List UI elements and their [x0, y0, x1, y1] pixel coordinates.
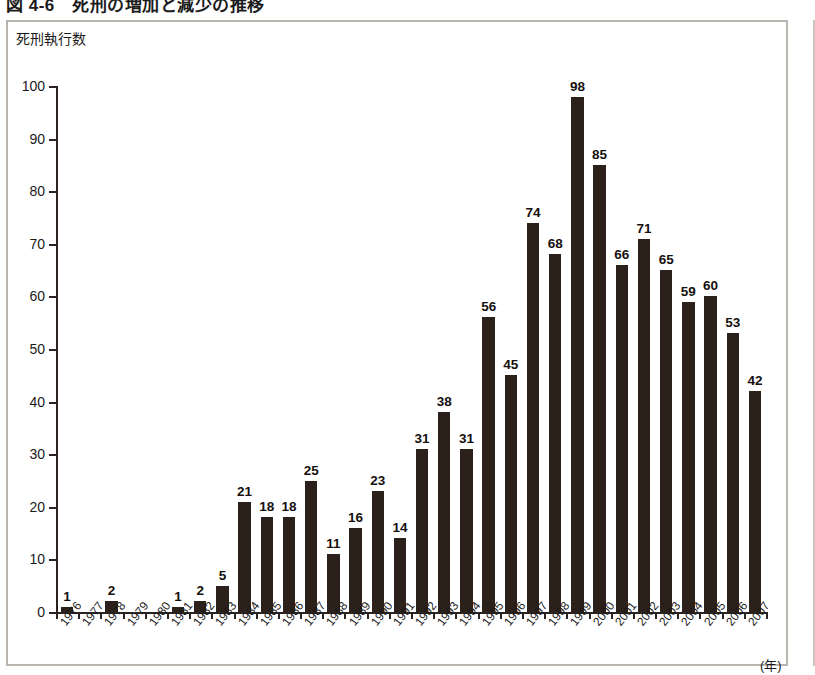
y-tick-label: 50 — [29, 341, 45, 357]
y-tick-label: 100 — [22, 78, 45, 94]
bar-value-label: 18 — [281, 499, 296, 514]
bar-value-label: 16 — [348, 510, 363, 525]
bar-slot: 21 — [238, 86, 250, 612]
bar — [460, 449, 472, 612]
bar-slot: 56 — [482, 86, 494, 612]
bar-value-label: 65 — [659, 252, 674, 267]
y-tick-label: 0 — [37, 604, 45, 620]
bar-slot: 2 — [194, 86, 206, 612]
bar-slot: 16 — [349, 86, 361, 612]
bar-value-label: 1 — [174, 589, 182, 604]
bar-slot: 71 — [638, 86, 650, 612]
bar-slot: 5 — [216, 86, 228, 612]
bar-slot: 53 — [727, 86, 739, 612]
y-tick-label: 70 — [29, 236, 45, 252]
y-tick-mark — [49, 402, 56, 404]
y-tick-label: 60 — [29, 288, 45, 304]
x-axis-unit-label: (年) — [760, 655, 782, 674]
figure-caption: 図 4-6 死刑の増加と減少の推移 — [6, 0, 265, 16]
bar-value-label: 2 — [108, 583, 116, 598]
y-tick-label: 90 — [29, 131, 45, 147]
y-tick-mark — [49, 86, 56, 88]
y-tick-mark — [49, 454, 56, 456]
bar — [505, 375, 517, 612]
bar-slot: 1 — [172, 86, 184, 612]
bar-value-label: 68 — [548, 236, 563, 251]
y-tick-label: 40 — [29, 394, 45, 410]
bar — [349, 528, 361, 612]
bar — [727, 333, 739, 612]
bar-value-label: 5 — [219, 568, 227, 583]
bar-slot — [127, 86, 139, 612]
bar-value-label: 98 — [570, 79, 585, 94]
y-tick-mark — [49, 559, 56, 561]
bar-slot: 42 — [749, 86, 761, 612]
bar — [372, 491, 384, 612]
bar-value-label: 11 — [326, 536, 340, 551]
bar — [749, 391, 761, 612]
y-tick-mark — [49, 296, 56, 298]
bar-value-label: 25 — [304, 463, 319, 478]
bar-value-label: 85 — [592, 147, 607, 162]
y-tick-label: 20 — [29, 499, 45, 515]
bar-value-label: 45 — [503, 357, 518, 372]
bar-slot: 66 — [616, 86, 628, 612]
y-tick-label: 10 — [29, 551, 45, 567]
bar-slot: 18 — [283, 86, 295, 612]
bar-value-label: 59 — [681, 284, 696, 299]
bar-slot: 59 — [682, 86, 694, 612]
bar — [638, 239, 650, 612]
bar — [527, 223, 539, 612]
y-tick-mark — [49, 139, 56, 141]
bar-slot: 65 — [660, 86, 672, 612]
bar-value-label: 38 — [437, 394, 452, 409]
bar-slot: 14 — [394, 86, 406, 612]
bar-value-label: 2 — [196, 583, 204, 598]
bar — [616, 265, 628, 612]
bar-value-label: 14 — [392, 520, 407, 535]
bar-value-label: 31 — [459, 431, 474, 446]
bar-value-label: 53 — [725, 315, 740, 330]
bar-slot — [150, 86, 162, 612]
bar-slot: 74 — [527, 86, 539, 612]
bar — [593, 165, 605, 612]
y-tick-mark — [49, 612, 56, 614]
bar-slot: 18 — [261, 86, 273, 612]
y-tick-mark — [49, 349, 56, 351]
bar-value-label: 56 — [481, 299, 496, 314]
bar-value-label: 66 — [614, 247, 629, 262]
bar-value-label: 74 — [526, 205, 541, 220]
bar — [549, 254, 561, 612]
bar-slot: 98 — [571, 86, 583, 612]
bar-value-label: 71 — [636, 221, 651, 236]
bar — [438, 412, 450, 612]
bar-value-label: 60 — [703, 278, 718, 293]
y-tick-label: 80 — [29, 183, 45, 199]
bar-slot — [83, 86, 95, 612]
bar-value-label: 42 — [747, 373, 762, 388]
y-axis-title: 死刑執行数 — [16, 28, 86, 48]
bar — [416, 449, 428, 612]
plot-area: 0102030405060708090100 12125211818251116… — [56, 86, 766, 612]
bar-value-label: 31 — [415, 431, 430, 446]
bar-slot: 45 — [505, 86, 517, 612]
y-tick-mark — [49, 191, 56, 193]
bar — [571, 97, 583, 612]
bar-slot: 60 — [704, 86, 716, 612]
bar-slot: 2 — [105, 86, 117, 612]
y-tick-mark — [49, 244, 56, 246]
bar-value-label: 18 — [259, 499, 274, 514]
bar-slot: 11 — [327, 86, 339, 612]
bar-slot: 38 — [438, 86, 450, 612]
x-axis-labels: 1976197719781979198019811982198319841985… — [56, 620, 766, 675]
bar-slot: 23 — [372, 86, 384, 612]
bar — [682, 302, 694, 612]
bar — [283, 517, 295, 612]
bar-slot: 1 — [61, 86, 73, 612]
bar-value-label: 23 — [370, 473, 385, 488]
bar-slot: 31 — [460, 86, 472, 612]
bar — [238, 502, 250, 612]
bar-value-label: 21 — [237, 484, 252, 499]
bar-slot: 25 — [305, 86, 317, 612]
y-tick-label: 30 — [29, 446, 45, 462]
